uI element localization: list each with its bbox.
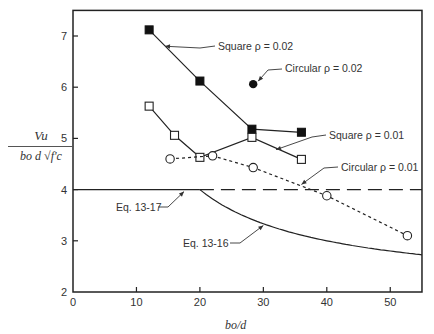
svg-text:3: 3 bbox=[61, 235, 67, 247]
svg-text:10: 10 bbox=[130, 296, 142, 308]
annotation-square-002: Square ρ = 0.02 bbox=[218, 40, 293, 52]
svg-text:40: 40 bbox=[321, 296, 333, 308]
x-axis-label: bo/d bbox=[225, 318, 246, 333]
annotation-square-001: Square ρ = 0.01 bbox=[329, 129, 404, 141]
annotation-circular-001: Circular ρ = 0.01 bbox=[341, 161, 419, 173]
chart-plot: 01020304050234567 Square ρ = 0.02 Circul… bbox=[0, 0, 434, 334]
svg-text:50: 50 bbox=[384, 296, 396, 308]
annotation-eq-13-16: Eq. 13-16 bbox=[183, 237, 229, 249]
annotation-circular-002: Circular ρ = 0.02 bbox=[285, 62, 363, 74]
svg-text:6: 6 bbox=[61, 81, 67, 93]
svg-text:2: 2 bbox=[61, 286, 67, 298]
svg-text:4: 4 bbox=[61, 184, 67, 196]
y-label-denominator: bo d √f'c bbox=[8, 147, 74, 164]
svg-text:20: 20 bbox=[194, 296, 206, 308]
svg-text:7: 7 bbox=[61, 30, 67, 42]
plot-frame bbox=[73, 10, 422, 292]
y-label-numerator: Vu bbox=[8, 128, 74, 147]
svg-text:0: 0 bbox=[70, 296, 76, 308]
annotation-eq-13-17: Eq. 13-17 bbox=[116, 201, 162, 213]
y-axis-label: Vu bo d √f'c bbox=[8, 128, 74, 164]
svg-text:30: 30 bbox=[257, 296, 269, 308]
